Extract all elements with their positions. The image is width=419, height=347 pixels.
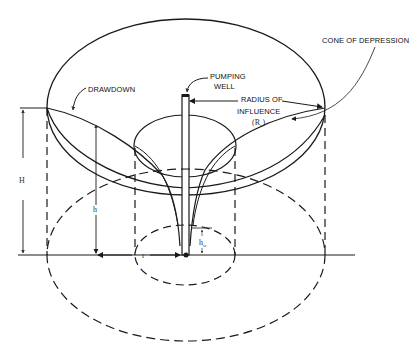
h-label: h bbox=[93, 205, 97, 214]
drawdown-label: DRAWDOWN bbox=[88, 85, 135, 94]
hw-label: hw bbox=[199, 238, 207, 248]
well-cap bbox=[182, 94, 189, 97]
H-label: H bbox=[19, 176, 25, 185]
cone-flank-left bbox=[135, 146, 178, 225]
cone-leader bbox=[292, 47, 375, 119]
drawdown-curve-left bbox=[47, 108, 180, 246]
pumping-label-2: WELL bbox=[214, 82, 235, 91]
radius-arrow-right bbox=[282, 101, 322, 107]
pumping-well bbox=[182, 95, 189, 255]
radius-symbol: (Ro) bbox=[252, 118, 266, 128]
radius-label-2: INFLUENCE bbox=[237, 107, 280, 116]
pumping-well-leader bbox=[187, 78, 208, 92]
radius-label-1: RADIUS OF bbox=[241, 95, 283, 104]
cone-of-depression-label: CONE OF DEPRESSION bbox=[322, 36, 409, 45]
pumping-label-1: PUMPING bbox=[210, 72, 246, 81]
well-bottom-point bbox=[184, 253, 189, 258]
cone-of-depression-diagram: H h r hw RADIUS OF INFLUENCE (Ro) PUMPIN… bbox=[0, 0, 419, 347]
drawdown-curve-right bbox=[190, 108, 325, 246]
r-label: r bbox=[142, 251, 145, 260]
drawdown-leader bbox=[73, 88, 86, 110]
